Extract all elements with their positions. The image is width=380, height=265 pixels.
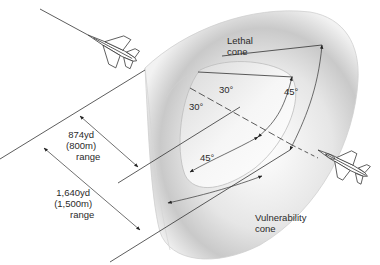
angle-outer-bottom-label: 45° <box>200 152 214 163</box>
weapon-cone-diagram <box>0 0 380 265</box>
range-874-label: 874yd (800m) range <box>62 129 100 162</box>
range-874-word: range <box>62 151 100 162</box>
range-1640-yd: 1,640yd <box>52 187 94 198</box>
range-1640-label: 1,640yd (1,500m) range <box>52 187 94 220</box>
range-874-yd: 874yd <box>62 129 100 140</box>
angle-inner-top-label: 30° <box>219 84 233 95</box>
vulnerability-cone-label: Vulnerability cone <box>255 212 306 234</box>
lethal-cone-label: Lethal cone <box>227 35 253 57</box>
range-1640-word: range <box>52 209 94 220</box>
vulnerability-cone-label-line1: Vulnerability <box>255 212 306 223</box>
lethal-cone-label-line2: cone <box>227 46 253 57</box>
lethal-cone-label-line1: Lethal <box>227 35 253 46</box>
range-874-m: (800m) <box>62 140 100 151</box>
angle-inner-left-label: 30° <box>189 101 203 112</box>
attacker-jet-icon <box>80 21 144 75</box>
vulnerability-cone-label-line2: cone <box>255 223 306 234</box>
angle-outer-right-label: 45° <box>284 86 298 97</box>
range-1640-m: (1,500m) <box>52 198 94 209</box>
